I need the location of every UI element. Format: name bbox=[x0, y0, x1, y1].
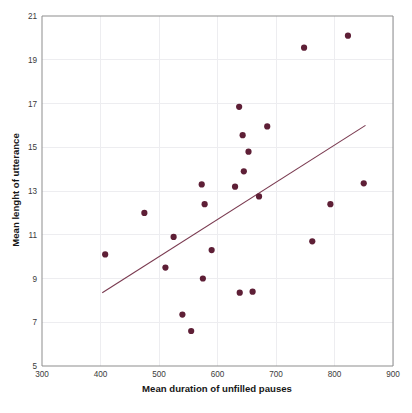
y-tick-label: 9 bbox=[32, 275, 37, 284]
data-point bbox=[171, 234, 177, 240]
data-point bbox=[301, 45, 307, 51]
y-tick-label: 7 bbox=[32, 318, 37, 327]
y-tick-label: 17 bbox=[28, 100, 38, 109]
data-point bbox=[202, 201, 208, 207]
data-point bbox=[237, 290, 243, 296]
data-point bbox=[256, 193, 262, 199]
x-tick-label: 300 bbox=[35, 370, 49, 379]
x-tick-label: 800 bbox=[328, 370, 342, 379]
x-tick-label: 600 bbox=[211, 370, 225, 379]
data-point bbox=[241, 168, 247, 174]
x-tick-label: 700 bbox=[269, 370, 283, 379]
data-point bbox=[188, 328, 194, 334]
data-point bbox=[209, 247, 215, 253]
data-point bbox=[264, 123, 270, 129]
data-point bbox=[236, 104, 242, 110]
data-point bbox=[141, 210, 147, 216]
data-point bbox=[250, 289, 256, 295]
x-tick-labels: 300400500600700800900 bbox=[35, 370, 400, 379]
data-point bbox=[179, 311, 185, 317]
data-point bbox=[240, 132, 246, 138]
data-points bbox=[102, 33, 367, 335]
data-point bbox=[309, 238, 315, 244]
data-point bbox=[102, 251, 108, 257]
data-point bbox=[245, 149, 251, 155]
data-point bbox=[345, 33, 351, 39]
chart-canvas: 300400500600700800900 579111315171921 Me… bbox=[0, 0, 412, 413]
caption-strip bbox=[0, 394, 412, 413]
regression-line bbox=[102, 125, 365, 292]
x-tick-label: 400 bbox=[94, 370, 108, 379]
x-tick-label: 500 bbox=[152, 370, 166, 379]
x-tick-label: 900 bbox=[386, 370, 400, 379]
data-point bbox=[200, 275, 206, 281]
y-axis-title: Mean lenght of utterance bbox=[10, 133, 21, 247]
y-tick-labels: 579111315171921 bbox=[28, 12, 38, 371]
y-tick-label: 21 bbox=[28, 12, 38, 21]
scatter-plot-figure: 300400500600700800900 579111315171921 Me… bbox=[0, 0, 412, 413]
trend-line bbox=[102, 125, 365, 292]
y-tick-label: 11 bbox=[29, 231, 38, 240]
y-tick-label: 15 bbox=[28, 143, 38, 152]
data-point bbox=[232, 184, 238, 190]
data-point bbox=[199, 181, 205, 187]
data-point bbox=[162, 264, 168, 270]
data-point bbox=[327, 201, 333, 207]
y-tick-label: 19 bbox=[28, 56, 38, 65]
x-axis-title: Mean duration of unfilled pauses bbox=[142, 383, 292, 394]
y-tick-label: 13 bbox=[28, 187, 38, 196]
y-tick-label: 5 bbox=[32, 362, 37, 371]
data-point bbox=[361, 180, 367, 186]
